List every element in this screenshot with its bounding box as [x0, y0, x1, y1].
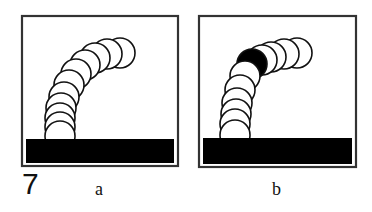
ground-bar	[203, 138, 352, 164]
panel-b-label: b	[272, 180, 281, 198]
figure-canvas	[0, 0, 372, 212]
panel-b	[199, 16, 356, 167]
panel-a-label: a	[95, 180, 103, 198]
figure-number: 7	[22, 169, 39, 199]
panel-a	[22, 16, 178, 166]
ground-bar	[26, 139, 174, 163]
